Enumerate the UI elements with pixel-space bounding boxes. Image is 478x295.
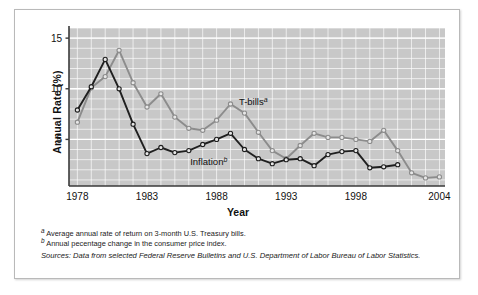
data-point (326, 153, 330, 157)
footnote-a-marker: a (41, 227, 45, 234)
svg-text:Inflationb: Inflationb (190, 156, 227, 167)
svg-text:T-billsa: T-billsa (239, 96, 268, 107)
data-point (187, 149, 191, 153)
data-point (284, 158, 288, 162)
data-point (131, 122, 135, 126)
data-point (368, 139, 372, 143)
data-point (242, 147, 246, 151)
x-tick-label: 1993 (275, 191, 298, 202)
x-tick-label: 1983 (136, 191, 159, 202)
series-annotation: Inflationb (190, 156, 227, 167)
data-point (173, 151, 177, 155)
data-point (382, 165, 386, 169)
data-point (103, 57, 107, 61)
data-point (410, 171, 414, 175)
data-point (256, 157, 260, 161)
source-note: Sources: Data from selected Federal Rese… (41, 251, 420, 261)
data-point (423, 176, 427, 180)
data-point (117, 48, 121, 52)
data-point (396, 163, 400, 167)
data-point (312, 131, 316, 135)
data-point (145, 152, 149, 156)
data-point (215, 137, 219, 141)
data-point (201, 142, 205, 146)
data-point (368, 166, 372, 170)
footnote-b-marker: b (41, 237, 45, 244)
data-point (298, 143, 302, 147)
data-point (256, 130, 260, 134)
series-annotation: T-billsa (239, 96, 268, 107)
x-tick-label: 1978 (66, 191, 89, 202)
x-tick-label: 1998 (345, 191, 368, 202)
data-point (354, 149, 358, 153)
data-point (103, 75, 107, 79)
data-point (242, 111, 246, 115)
source-text: Data from selected Federal Reserve Bulle… (73, 251, 420, 260)
y-axis-title: Annual Rate (%) (51, 42, 63, 182)
data-point (354, 137, 358, 141)
data-point (75, 108, 79, 112)
data-point (382, 128, 386, 132)
source-label: Sources: (41, 251, 71, 260)
data-point (312, 164, 316, 168)
data-point (75, 120, 79, 124)
data-point (270, 162, 274, 166)
footnote-b-text: Annual pecentage change in the consumer … (46, 239, 226, 248)
data-point (270, 149, 274, 153)
x-axis-title: Year (15, 206, 461, 218)
data-point (145, 105, 149, 109)
data-point (298, 157, 302, 161)
data-point (326, 135, 330, 139)
data-point (396, 149, 400, 153)
data-point (228, 102, 232, 106)
data-point (131, 81, 135, 85)
footnote-b: b Annual pecentage change in the consume… (41, 236, 227, 249)
data-point (173, 115, 177, 119)
data-point (340, 135, 344, 139)
data-point (159, 92, 163, 96)
data-point (437, 175, 441, 179)
figure-panel: 51015197819831988199319982004T-billsaInf… (14, 9, 460, 279)
data-point (215, 118, 219, 122)
data-point (201, 128, 205, 132)
x-tick-label: 1988 (205, 191, 228, 202)
data-point (228, 131, 232, 135)
x-tick-label: 2004 (428, 191, 451, 202)
data-point (89, 85, 93, 89)
data-point (117, 87, 121, 91)
data-point (187, 126, 191, 130)
data-point (159, 145, 163, 149)
data-point (340, 150, 344, 154)
